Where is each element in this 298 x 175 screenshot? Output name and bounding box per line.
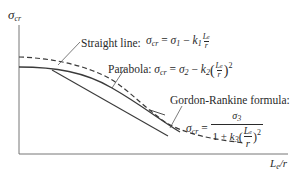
exponent: 2 [228,61,232,70]
gordon-rankine-pointer [170,106,182,128]
frac-den: r [204,41,209,50]
straight-line-label: Straight line: [81,38,141,50]
straight-line [52,70,168,136]
exponent: 2 [257,128,261,137]
den-one: 1 + [213,130,230,142]
frac-den: r [217,70,222,79]
y-axis-subscript: cr [14,14,21,23]
inner-frac-num-sub: e [249,129,252,135]
x-axis-label: Le/r [270,158,287,171]
formula-eq: = [158,34,170,46]
frac-num-sub: e [207,34,210,40]
inner-frac-den: r [244,136,252,149]
parabola-label: Parabola: σcr = σ2 − k2(Ler)2 [108,62,232,79]
parabola-title: Parabola: [108,63,151,75]
frac-num-sub: 3 [237,114,241,123]
y-axis-label: σcr [8,8,21,23]
formula-lhs-sub: cr [160,68,167,77]
straight-line-title: Straight line: [81,37,141,49]
formula-fraction: σ31 + k3(Ler)2 [211,110,263,149]
formula-minus: − [189,63,201,75]
formula-eq: = [167,63,179,75]
gordon-rankine-formula: σcr = σ31 + k3(Ler)2 [186,110,263,149]
inner-fraction: Ler [243,126,253,149]
gordon-rankine-label: Gordon-Rankine formula: [170,95,290,107]
x-axis-denominator: r [283,157,287,169]
straight-line-pointer [58,42,80,65]
formula-minus: − [180,34,192,46]
straight-line-formula: σcr = σ1 − k1Ler [146,33,211,50]
gordon-rankine-title: Gordon-Rankine formula: [170,94,290,106]
formula-fraction: Ler [202,33,211,50]
formula-fraction: Ler [215,62,224,79]
formula-eq: = [198,122,210,134]
frac-num-sub: e [220,63,223,69]
